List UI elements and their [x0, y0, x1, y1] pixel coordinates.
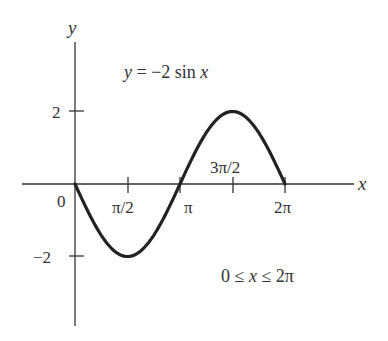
tick-label-pi-half: π/2	[112, 198, 134, 217]
equation-rhs: = −2 sin	[132, 62, 200, 82]
equation-label: y = −2 sin x	[122, 62, 208, 82]
tick-label-y-2: 2	[52, 103, 61, 122]
tick-label-y-neg2: −2	[33, 248, 51, 267]
chart: y x 0 π/2 π 3π/2 2π 2 −2 y = −2 sin x 0 …	[0, 0, 388, 341]
tick-label-pi: π	[184, 198, 193, 217]
equation-var: x	[199, 62, 208, 82]
tick-label-two-pi: 2π	[274, 198, 292, 217]
domain-text-b: ≤ 2π	[257, 266, 294, 286]
tick-label-three-pi-half: 3π/2	[210, 158, 240, 177]
domain-var: x	[248, 266, 257, 286]
domain-text-a: 0 ≤	[221, 266, 249, 286]
equation-lhs: y	[122, 62, 132, 82]
domain-annotation: 0 ≤ x ≤ 2π	[221, 266, 294, 286]
y-axis-label: y	[66, 17, 77, 38]
x-axis-label: x	[357, 173, 367, 194]
origin-label: 0	[57, 192, 66, 211]
